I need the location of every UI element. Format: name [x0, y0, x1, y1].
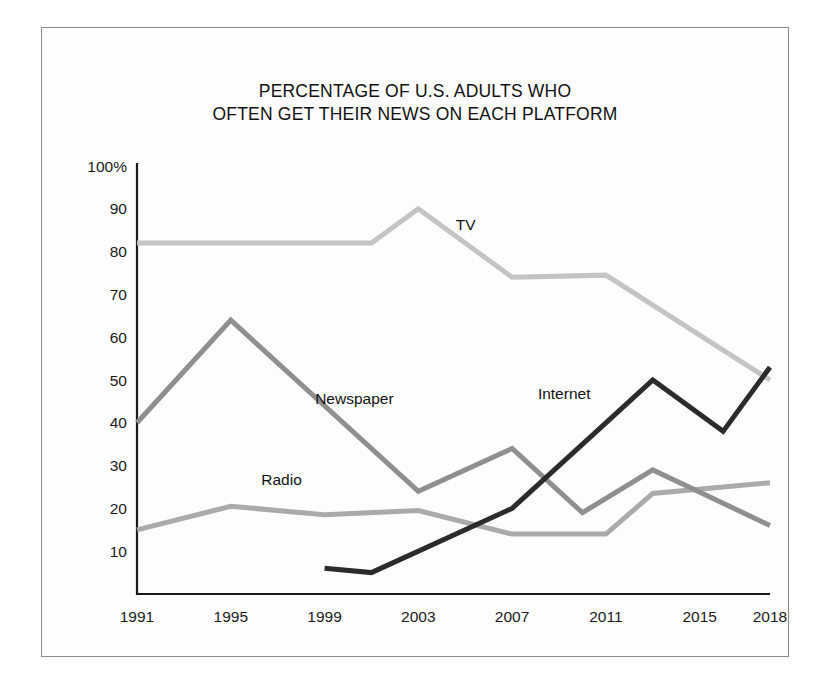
y-tick-label-60: 60 — [110, 329, 128, 346]
series-label-tv: TV — [456, 216, 476, 233]
chart-title: PERCENTAGE OF U.S. ADULTS WHO OFTEN GET … — [212, 81, 617, 124]
chart-figure: PERCENTAGE OF U.S. ADULTS WHO OFTEN GET … — [0, 0, 831, 677]
x-axis-tick-labels: 19911995199920032007201120152018 — [120, 608, 787, 625]
series-line-radio — [137, 483, 770, 534]
y-tick-label-30: 30 — [110, 457, 128, 474]
axis-spine — [137, 163, 770, 594]
x-tick-label-2018: 2018 — [753, 608, 787, 625]
series-line-newspaper — [137, 320, 770, 525]
x-tick-label-1991: 1991 — [120, 608, 154, 625]
x-tick-label-1999: 1999 — [307, 608, 341, 625]
y-tick-label-90: 90 — [110, 200, 128, 217]
x-tick-label-2011: 2011 — [589, 608, 622, 625]
x-tick-label-1995: 1995 — [214, 608, 248, 625]
y-tick-label-80: 80 — [110, 243, 128, 260]
series-inline-labels: TVNewspaperRadioInternet — [261, 216, 591, 488]
chart-title-line-1: PERCENTAGE OF U.S. ADULTS WHO — [259, 81, 571, 101]
y-tick-label-20: 20 — [110, 500, 128, 517]
y-tick-label-70: 70 — [110, 286, 128, 303]
news-platform-line-chart: PERCENTAGE OF U.S. ADULTS WHO OFTEN GET … — [0, 0, 831, 677]
chart-title-line-2: OFTEN GET THEIR NEWS ON EACH PLATFORM — [212, 104, 617, 124]
data-series-lines — [137, 209, 770, 573]
series-label-internet: Internet — [538, 385, 591, 402]
x-tick-label-2007: 2007 — [495, 608, 529, 625]
y-tick-label-100pct: 100% — [87, 158, 127, 175]
series-label-newspaper: Newspaper — [315, 390, 393, 407]
x-tick-label-2015: 2015 — [682, 608, 716, 625]
series-line-tv — [137, 209, 770, 380]
y-tick-label-40: 40 — [110, 414, 128, 431]
axis-lines — [137, 163, 770, 594]
series-label-radio: Radio — [261, 471, 302, 488]
y-axis-tick-labels: 102030405060708090100% — [87, 158, 127, 560]
y-tick-label-50: 50 — [110, 372, 128, 389]
y-tick-label-10: 10 — [110, 543, 128, 560]
x-tick-label-2003: 2003 — [401, 608, 435, 625]
